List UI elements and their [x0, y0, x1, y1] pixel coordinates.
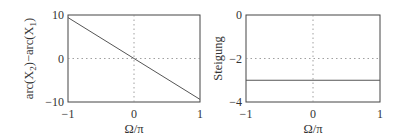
right-xtick-0: 0: [310, 107, 316, 121]
right-xtick-neg1: −1: [240, 107, 253, 121]
left-xtick-0: 0: [131, 107, 137, 121]
left-plot: 10 0 −10 −1 0 1 Ω/π arc(X2)−arc(X1): [22, 8, 203, 136]
right-plot: 0 −2 −4 −1 0 1 Ω/π Steigung: [211, 8, 383, 136]
left-ytick-0: 0: [58, 52, 64, 66]
left-xlabel: Ω/π: [124, 122, 144, 136]
left-ytick-10: 10: [52, 8, 64, 22]
figure: 10 0 −10 −1 0 1 Ω/π arc(X2)−arc(X1) 0 −2…: [0, 0, 399, 140]
right-ytick-0: 0: [236, 8, 242, 22]
left-xtick-neg1: −1: [62, 107, 75, 121]
right-xtick-1: 1: [377, 107, 383, 121]
right-ylabel: Steigung: [211, 36, 225, 81]
left-ylabel: arc(X2)−arc(X1): [22, 18, 38, 99]
left-xtick-1: 1: [197, 107, 203, 121]
right-xlabel: Ω/π: [303, 122, 323, 136]
right-ytick-neg2: −2: [229, 52, 242, 66]
